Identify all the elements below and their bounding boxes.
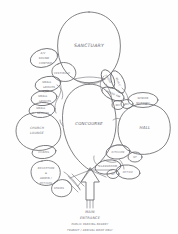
label-classroom: CLASSROOM xyxy=(99,165,118,168)
diagram-page: SANCTUARY CONCOURSE HALL CHURCH LOUNGE A… xyxy=(0,0,178,234)
connector-left-cluster-2 xyxy=(57,85,63,99)
label-small-groups-a-line2: GROUPS xyxy=(43,86,55,89)
bubble-church-lounge[interactable]: CHURCH LOUNGE xyxy=(16,112,61,150)
label-office: OFFICE xyxy=(123,171,134,174)
stair-hatching xyxy=(66,174,84,192)
connector-sanctuary-concourse-2 xyxy=(74,77,105,79)
label-reception-line4: OFFICES xyxy=(40,182,52,185)
label-av-line1: A/V xyxy=(39,52,45,55)
label-church-lounge-line1: CHURCH xyxy=(30,126,45,130)
bubble-chapel[interactable]: CHAPEL xyxy=(31,144,56,159)
label-concourse: CONCOURSE xyxy=(75,121,103,126)
entrance-note-line1: PUBLIC PARKING NEARBY xyxy=(71,223,108,226)
label-small-groups-a-line1: SMALL xyxy=(42,81,52,84)
label-av-line3: CONTROL xyxy=(39,62,53,65)
bubble-classroom[interactable]: CLASSROOM xyxy=(94,158,122,175)
main-entrance-caption: MAIN ENTRANCE PUBLIC PARKING NEARBY TRAN… xyxy=(67,210,113,232)
label-chapel: CHAPEL xyxy=(38,151,50,154)
label-reception-line1: RECEPTION xyxy=(38,167,55,170)
bubble-vestibule[interactable]: VESTIBULE xyxy=(52,63,76,82)
label-church-lounge-line2: LOUNGE xyxy=(30,131,44,135)
label-senior-nursery-line1: SENIOR xyxy=(137,97,148,100)
label-storage-b: ST xyxy=(111,173,115,176)
bubble-kitchen[interactable]: KITCHEN xyxy=(105,144,130,160)
label-stairs: STAIRS xyxy=(54,187,64,190)
label-vestibule: VESTIBULE xyxy=(54,72,70,75)
label-storage-a: ST xyxy=(133,156,137,159)
connector-lower-right-3 xyxy=(119,159,124,169)
label-senior-nursery-line2: NURSERY xyxy=(136,102,150,105)
label-small-groups-c-line1: SMALL xyxy=(36,107,46,110)
entrance-note-line2: TRANSIT / ARRIVAL DROP ONLY xyxy=(67,229,113,232)
bubble-senior-nursery[interactable]: SENIOR NURSERY xyxy=(128,93,158,108)
bubble-av-sound-control[interactable]: A/V SOUND CONTROL xyxy=(28,45,60,70)
label-wc-b: WC xyxy=(125,103,130,106)
label-music: MUSIC xyxy=(115,77,122,87)
label-reception-line2: & xyxy=(45,172,47,175)
label-sanctuary: SANCTUARY xyxy=(74,43,105,48)
label-hall: HALL xyxy=(139,125,150,130)
label-small-groups-b-line1: SMALL xyxy=(38,95,48,98)
bubble-wc-b[interactable]: WC xyxy=(121,100,133,109)
connector-left-cluster xyxy=(55,78,61,113)
label-av-line2: SOUND xyxy=(39,57,50,60)
entrance-title-line1: MAIN xyxy=(85,210,95,214)
bubble-stairs[interactable]: STAIRS xyxy=(52,180,72,197)
main-entrance-arrow-icon xyxy=(81,168,99,208)
bubble-diagram-canvas: SANCTUARY CONCOURSE HALL CHURCH LOUNGE A… xyxy=(0,0,178,234)
label-small-groups-c-line2: GROUPS xyxy=(37,112,49,115)
label-kitchen: KITCHEN xyxy=(112,151,125,154)
bubble-office[interactable]: OFFICE xyxy=(115,164,140,180)
label-wc-a: WC xyxy=(116,104,121,107)
entrance-title-line2: ENTRANCE xyxy=(80,216,101,220)
label-reception-line3: ADMIN / xyxy=(39,177,53,180)
